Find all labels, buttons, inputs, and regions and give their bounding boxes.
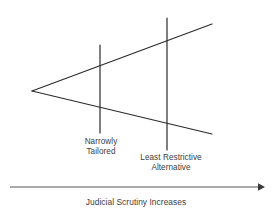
diagram-canvas [0, 0, 273, 219]
arrow-right-icon [258, 183, 265, 191]
axis-caption: Judicial Scrutiny Increases [86, 197, 187, 208]
marker-label-line1: Least Restrictive [140, 153, 201, 162]
marker-label-narrowly-tailored: Narrowly Tailored [85, 137, 118, 158]
marker-label-line2: Alternative [140, 163, 201, 173]
marker-label-line2: Tailored [85, 147, 118, 157]
judicial-scrutiny-diagram: Narrowly Tailored Least Restrictive Alte… [0, 0, 273, 219]
wedge-upper-line [32, 24, 212, 91]
marker-label-least-restrictive-alternative: Least Restrictive Alternative [140, 153, 201, 174]
marker-label-line1: Narrowly [85, 137, 118, 146]
wedge-lower-line [32, 91, 212, 134]
